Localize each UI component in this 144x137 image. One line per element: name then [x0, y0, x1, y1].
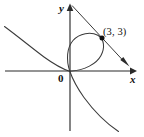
- y-axis-arrowhead: [67, 4, 74, 12]
- math-figure: y x 0 (3, 3): [0, 0, 144, 137]
- x-axis-label: x: [130, 74, 136, 85]
- origin-label: 0: [58, 73, 64, 84]
- y-axis-label: y: [59, 3, 64, 14]
- curve-branch-upper-left: [5, 27, 70, 72]
- point-coordinate-label: (3, 3): [103, 27, 126, 38]
- figure-canvas: [0, 0, 144, 137]
- curve-branch-lower-right: [70, 71, 119, 132]
- curve-loop: [67, 33, 103, 71]
